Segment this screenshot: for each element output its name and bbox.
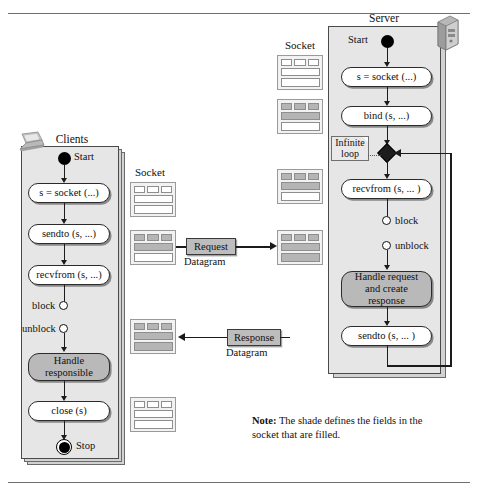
- infinite-loop-note: Infinite loop: [331, 136, 369, 161]
- server-start-label: Start: [348, 34, 368, 45]
- client-connector-socket-sendto: [64, 203, 66, 220]
- client-start-node: [58, 152, 71, 165]
- socket-bar: [134, 243, 173, 252]
- socket-bar: [134, 205, 173, 214]
- client-connector-close-stop: [64, 421, 66, 436]
- shade-legend-note: Note: The shade defines the fields in th…: [252, 414, 442, 442]
- socket-cell: [281, 234, 292, 241]
- server-arrow-5: [384, 265, 390, 270]
- client-panel-title: Clients: [42, 133, 102, 145]
- socket-bar: [281, 182, 320, 191]
- client-connector-recvfrom-block: [64, 285, 66, 302]
- socket-cell: [308, 173, 319, 180]
- socket-cell: [308, 234, 319, 241]
- client-node-recvfrom: recvfrom (s, ...): [28, 265, 110, 285]
- client-unblock-label: unblock: [22, 323, 56, 334]
- client-connector-start-socket: [64, 165, 66, 179]
- client-arrow-4: [61, 347, 67, 352]
- client-node-handle-responsible: Handle responsible: [28, 353, 110, 381]
- client-node-sendto: sendto (s, ...): [28, 224, 110, 244]
- socket-bar: [134, 253, 173, 262]
- socket-bar: [134, 195, 173, 204]
- request-datagram-label: Request: [186, 238, 236, 255]
- server-connector-socket-bind: [387, 87, 389, 102]
- client-start-label: Start: [74, 151, 94, 162]
- response-datagram-label: Response: [227, 329, 281, 346]
- note-fold-corner: [363, 137, 368, 142]
- server-loopback-top: [398, 153, 451, 155]
- request-line-right: [236, 246, 272, 248]
- server-node-recvfrom: recvfrom (s, ... ): [341, 179, 432, 199]
- infinite-loop-leader-line: [368, 155, 381, 156]
- client-stop-label: Stop: [76, 440, 95, 451]
- socket-bar: [281, 122, 320, 131]
- server-connector-recvfrom-block: [387, 199, 389, 217]
- server-loopback-right: [450, 153, 452, 366]
- socket-cell: [308, 103, 319, 110]
- server-node-handle-request: Handle request and create response: [341, 271, 432, 307]
- response-datagram-sublabel: Datagram: [226, 347, 267, 358]
- server-socket-listening: [277, 169, 323, 204]
- client-connector-unblock-handle: [64, 333, 66, 348]
- server-unblock-label: unblock: [395, 240, 429, 251]
- server-socket-request-received: [277, 230, 323, 265]
- socket-cell: [161, 186, 172, 193]
- socket-cell: [134, 323, 145, 330]
- socket-cell: [147, 401, 158, 408]
- socket-bar: [134, 342, 173, 351]
- socket-cell: [308, 59, 319, 66]
- socket-cell: [281, 173, 292, 180]
- server-connector-handle-sendto: [387, 307, 389, 322]
- server-node-socket: s = socket (...): [341, 67, 432, 87]
- server-connector-loop-recvfrom: [387, 160, 389, 175]
- server-node-sendto: sendto (s, ... ): [341, 326, 432, 346]
- server-loopback-arrowhead: [394, 149, 401, 157]
- request-arrowhead: [270, 242, 277, 250]
- socket-cell: [161, 234, 172, 241]
- note-text: The shade defines the fields in the sock…: [252, 415, 422, 440]
- server-socket-created: [277, 55, 323, 90]
- client-unblock-marker: [59, 324, 68, 333]
- laptop-icon: [14, 131, 46, 157]
- socket-cell: [147, 186, 158, 193]
- response-line-right: [280, 337, 290, 339]
- socket-cell: [281, 59, 292, 66]
- socket-cell: [134, 234, 145, 241]
- server-socket-bound: [277, 99, 323, 134]
- socket-bar: [281, 192, 320, 201]
- server-tower-icon: [432, 12, 462, 52]
- response-line-left: [184, 337, 228, 339]
- socket-cell: [294, 59, 305, 66]
- client-block-marker: [59, 301, 68, 310]
- client-connector-sendto-recvfrom: [64, 244, 66, 261]
- socket-bar: [134, 420, 173, 429]
- client-socket-request-filled: [130, 230, 176, 265]
- socket-bar: [281, 68, 320, 77]
- socket-bar: [281, 112, 320, 121]
- client-socket-created: [130, 182, 176, 217]
- socket-cell: [294, 103, 305, 110]
- socket-cell: [294, 234, 305, 241]
- server-block-label: block: [395, 215, 418, 226]
- server-connector-start-socket: [387, 48, 389, 63]
- server-connector-unblock-handle: [387, 250, 389, 266]
- server-unblock-marker: [382, 241, 391, 250]
- client-node-close: close (s): [28, 401, 110, 421]
- client-socket-column-label: Socket: [135, 166, 165, 178]
- request-datagram-sublabel: Datagram: [184, 256, 225, 267]
- socket-bar: [281, 243, 320, 252]
- socket-bar: [281, 78, 320, 87]
- client-block-label: block: [32, 300, 55, 311]
- socket-cell: [134, 401, 145, 408]
- client-socket-closed: [130, 397, 176, 432]
- socket-bar: [281, 253, 320, 262]
- socket-cell: [294, 173, 305, 180]
- socket-cell: [161, 401, 172, 408]
- server-loopback-down: [387, 346, 389, 366]
- server-start-node: [381, 35, 394, 48]
- server-node-bind: bind (s, ...): [341, 106, 432, 126]
- socket-cell: [134, 186, 145, 193]
- server-panel-title: Server: [344, 12, 424, 24]
- figure-canvas: Server Start s = socket (...) bind (s, .…: [0, 0, 478, 500]
- server-socket-column-label: Socket: [285, 39, 315, 51]
